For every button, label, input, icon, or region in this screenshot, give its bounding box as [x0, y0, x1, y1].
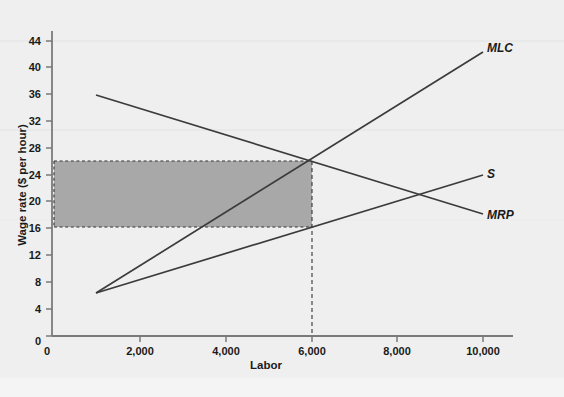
y-axis-title: Wage rate ($ per hour)	[16, 124, 28, 246]
chart-canvas: 0 4 8 12 16 20 24 28 32 36 40 44 0 2,000…	[0, 0, 564, 397]
curve-label-mrp: MRP	[487, 208, 515, 222]
curve-label-s: S	[487, 167, 495, 181]
curve-label-mlc: MLC	[487, 41, 513, 55]
ytick-label-4: 4	[35, 303, 42, 315]
ytick-label-24: 24	[29, 169, 42, 181]
ytick-label-0: 0	[35, 335, 41, 347]
ytick-label-28: 28	[29, 142, 41, 154]
ytick-label-8: 8	[35, 276, 41, 288]
ytick-label-12: 12	[29, 249, 41, 261]
xtick-label-6000: 6,000	[298, 345, 326, 357]
x-axis-tick-labels: 0 2,000 4,000 6,000 8,000 10,000	[44, 345, 500, 357]
xtick-label-2000: 2,000	[126, 345, 154, 357]
shaded-surplus-rectangle	[54, 161, 312, 227]
xtick-label-10000: 10,000	[466, 345, 500, 357]
ytick-label-44: 44	[29, 35, 42, 47]
ytick-label-36: 36	[29, 88, 41, 100]
ytick-label-40: 40	[29, 61, 41, 73]
xtick-label-4000: 4,000	[212, 345, 240, 357]
ytick-label-32: 32	[29, 115, 41, 127]
y-axis-tick-labels: 0 4 8 12 16 20 24 28 32 36 40 44	[29, 35, 42, 347]
chart-figure: 0 4 8 12 16 20 24 28 32 36 40 44 0 2,000…	[0, 0, 564, 397]
x-axis-title: Labor	[250, 359, 282, 371]
ytick-label-16: 16	[29, 222, 41, 234]
xtick-label-0: 0	[44, 345, 50, 357]
xtick-label-8000: 8,000	[383, 345, 411, 357]
ytick-label-20: 20	[29, 195, 41, 207]
